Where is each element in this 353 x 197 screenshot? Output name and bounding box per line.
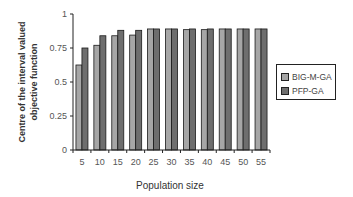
bar <box>100 36 106 150</box>
bar <box>225 29 231 150</box>
bar <box>172 29 178 150</box>
bar <box>148 29 154 150</box>
bar <box>207 29 213 150</box>
x-tick-label: 30 <box>166 157 176 167</box>
legend-label: PFP-GA <box>292 86 324 96</box>
x-tick-label: 50 <box>238 157 248 167</box>
y-axis-label-line: objective function <box>29 43 39 120</box>
x-axis-label: Population size <box>136 180 204 191</box>
bar <box>130 35 136 150</box>
x-tick-label: 45 <box>220 157 230 167</box>
x-tick-label: 55 <box>256 157 266 167</box>
legend-item-big-m-ga: BIG-M-GA <box>281 72 332 82</box>
bar <box>261 29 267 150</box>
x-tick-label: 20 <box>131 157 141 167</box>
x-tick-label: 25 <box>149 157 159 167</box>
x-tick-label: 10 <box>95 157 105 167</box>
bar <box>136 30 142 150</box>
y-axis: 00.250.50.751 <box>49 9 73 155</box>
y-tick-label: 0.75 <box>49 43 67 53</box>
bars <box>76 29 267 150</box>
bar <box>189 29 195 150</box>
bar <box>219 29 225 150</box>
x-tick-label: 5 <box>79 157 84 167</box>
y-tick-label: 0.25 <box>49 111 67 121</box>
bar <box>201 30 207 150</box>
bar <box>112 36 118 150</box>
y-axis-label: Centre of the interval valuedobjective f… <box>17 21 39 142</box>
bar <box>237 29 243 150</box>
x-tick-label: 35 <box>184 157 194 167</box>
legend: BIG-M-GA PFP-GA <box>276 64 336 100</box>
y-axis-label-line: Centre of the interval valued <box>17 21 27 142</box>
y-tick-label: 1 <box>62 9 67 19</box>
x-axis: 510152025303540455055 <box>73 150 270 167</box>
bar <box>183 30 189 150</box>
legend-label: BIG-M-GA <box>292 72 332 82</box>
legend-swatch-pfp-ga <box>281 87 289 95</box>
legend-item-pfp-ga: PFP-GA <box>281 86 324 96</box>
bar <box>166 29 172 150</box>
bar <box>255 29 261 150</box>
bar <box>82 48 88 150</box>
bar <box>76 65 82 150</box>
bar <box>94 45 100 150</box>
x-tick-label: 15 <box>113 157 123 167</box>
y-tick-label: 0 <box>62 145 67 155</box>
x-tick-label: 40 <box>202 157 212 167</box>
bar <box>243 29 249 150</box>
legend-swatch-big-m-ga <box>281 73 289 81</box>
bar <box>118 30 124 150</box>
y-tick-label: 0.5 <box>54 77 67 87</box>
bar <box>154 29 160 150</box>
